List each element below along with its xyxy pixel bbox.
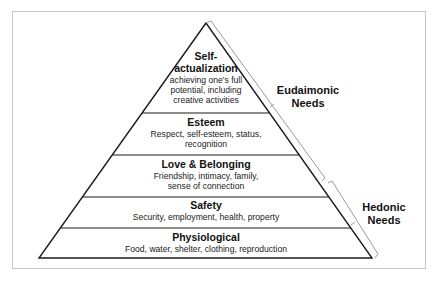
level-esteem: Esteem Respect, self-esteem, status, rec… bbox=[126, 116, 286, 150]
group-label-line: Needs bbox=[354, 214, 414, 227]
group-label-line: Hedonic bbox=[354, 201, 414, 214]
level-desc: Security, employment, health, property bbox=[96, 213, 316, 223]
level-desc: creative activities bbox=[146, 96, 266, 106]
level-title: Love & Belonging bbox=[106, 158, 306, 170]
level-title: actualization bbox=[146, 62, 266, 74]
hedonic-needs-label: Hedonic Needs bbox=[354, 201, 414, 227]
level-safety: Safety Security, employment, health, pro… bbox=[96, 199, 316, 223]
level-desc: Food, water, shelter, clothing, reproduc… bbox=[86, 245, 326, 255]
eudaimonic-needs-label: Eudaimonic Needs bbox=[268, 84, 348, 110]
level-physiological: Physiological Food, water, shelter, clot… bbox=[86, 231, 326, 255]
level-desc: sense of connection bbox=[106, 182, 306, 192]
level-title: Safety bbox=[96, 199, 316, 211]
group-label-line: Eudaimonic bbox=[268, 84, 348, 97]
level-self-actualization: Self- actualization achieving one's full… bbox=[146, 50, 266, 106]
level-love-belonging: Love & Belonging Friendship, intimacy, f… bbox=[106, 158, 306, 192]
level-title: Esteem bbox=[126, 116, 286, 128]
level-title: Self- bbox=[146, 50, 266, 62]
level-title: Physiological bbox=[86, 231, 326, 243]
group-label-line: Needs bbox=[268, 97, 348, 110]
level-desc: recognition bbox=[126, 140, 286, 150]
